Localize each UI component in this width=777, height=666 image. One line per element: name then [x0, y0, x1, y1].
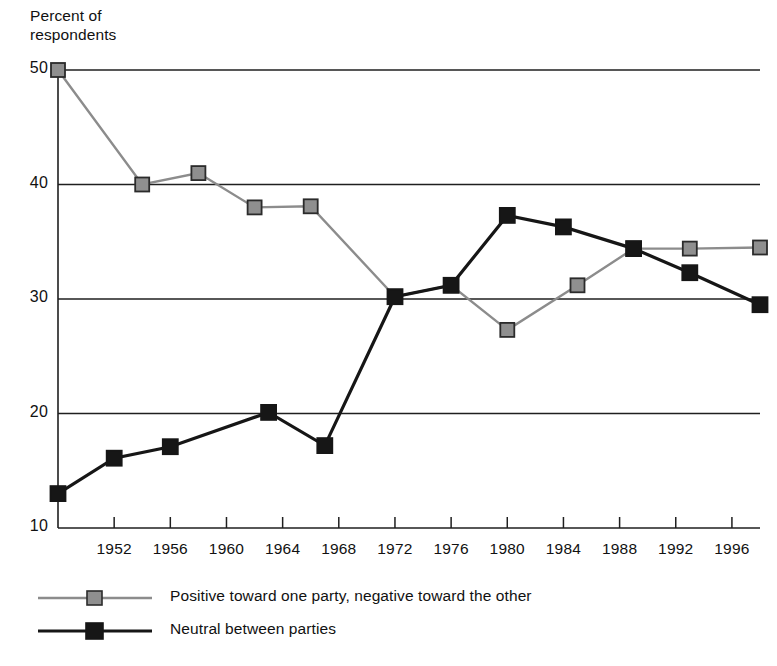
legend-swatch-positive: [36, 585, 154, 611]
legend-item-neutral: Neutral between parties: [0, 618, 777, 651]
legend-item-positive: Positive toward one party, negative towa…: [0, 585, 777, 618]
y-tick-label-20: 20: [8, 403, 48, 421]
data-point-s1-10: [682, 265, 697, 280]
x-tick-label-1972: 1972: [365, 540, 425, 558]
x-tick-label-1952: 1952: [84, 540, 144, 558]
chart-container: Percent ofrespondents 5040302010 1952195…: [0, 0, 777, 666]
data-point-s0-3: [248, 200, 262, 214]
data-point-s1-2: [163, 439, 178, 454]
data-point-s0-4: [304, 199, 318, 213]
data-point-s1-8: [556, 219, 571, 234]
y-tick-label-50: 50: [8, 59, 48, 77]
data-point-s1-6: [444, 278, 459, 293]
data-point-s1-3: [261, 405, 276, 420]
y-tick-label-30: 30: [8, 288, 48, 306]
data-point-s0-7: [500, 323, 514, 337]
data-point-s1-9: [626, 241, 641, 256]
x-tick-label-1992: 1992: [646, 540, 706, 558]
plot-area: [0, 0, 777, 666]
y-tick-label-40: 40: [8, 174, 48, 192]
data-point-s1-11: [753, 297, 768, 312]
data-point-s1-5: [388, 289, 403, 304]
x-tick-label-1960: 1960: [196, 540, 256, 558]
x-tick-label-1988: 1988: [590, 540, 650, 558]
data-point-s0-0: [51, 63, 65, 77]
data-point-s0-8: [571, 278, 585, 292]
data-point-s1-7: [500, 208, 515, 223]
x-tick-label-1964: 1964: [253, 540, 313, 558]
legend-label-positive: Positive toward one party, negative towa…: [170, 587, 532, 605]
y-tick-label-10: 10: [8, 517, 48, 535]
series-line-0: [58, 70, 760, 330]
chart-legend: Positive toward one party, negative towa…: [0, 585, 777, 651]
x-tick-label-1996: 1996: [702, 540, 762, 558]
x-tick-label-1984: 1984: [533, 540, 593, 558]
x-tick-label-1956: 1956: [140, 540, 200, 558]
legend-label-neutral: Neutral between parties: [170, 620, 336, 638]
data-point-s0-10: [683, 242, 697, 256]
data-point-s0-2: [191, 166, 205, 180]
data-point-s1-1: [107, 451, 122, 466]
data-point-s0-1: [135, 178, 149, 192]
data-point-s1-4: [317, 438, 332, 453]
x-tick-label-1976: 1976: [421, 540, 481, 558]
data-point-s0-11: [753, 241, 767, 255]
x-tick-label-1968: 1968: [309, 540, 369, 558]
data-point-s1-0: [51, 486, 66, 501]
legend-swatch-neutral: [36, 618, 154, 644]
x-tick-label-1980: 1980: [477, 540, 537, 558]
